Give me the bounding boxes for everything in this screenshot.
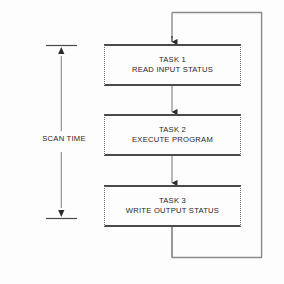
- task-3-description: WRITE OUTPUT STATUS: [126, 206, 219, 216]
- task-box-task-2: TASK 2 EXECUTE PROGRAM: [104, 114, 241, 156]
- task-box-task-1: TASK 1 READ INPUT STATUS: [104, 44, 241, 86]
- task-2-title: TASK 2: [159, 125, 186, 135]
- task-3-title: TASK 3: [159, 196, 186, 206]
- task-1-description: READ INPUT STATUS: [132, 65, 213, 75]
- scan-time-dimension: [46, 46, 77, 219]
- scan-time-bottom-arrowhead: [58, 210, 64, 217]
- task-2-description: EXECUTE PROGRAM: [132, 135, 213, 145]
- scan-time-top-arrowhead: [58, 47, 64, 54]
- task-1-title: TASK 1: [159, 55, 186, 65]
- task-box-task-3: TASK 3 WRITE OUTPUT STATUS: [104, 185, 241, 227]
- scan-time-label: SCAN TIME: [24, 133, 104, 144]
- plc-scan-cycle-diagram: SCAN TIME TASK 1 READ INPUT STATUS TASK …: [0, 0, 284, 284]
